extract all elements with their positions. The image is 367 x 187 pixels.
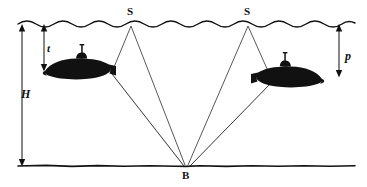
left-submarine: [43, 44, 116, 79]
diagram-canvas: H t p S S B: [0, 0, 367, 187]
label-surface-point-left: S: [127, 6, 133, 17]
dimension-p: [336, 24, 342, 78]
ray-left-sub-to-S1: [112, 26, 131, 72]
ray-S1-to-B: [131, 26, 185, 165]
sea-bottom-line: [18, 165, 355, 166]
label-surface-point-right: S: [244, 6, 250, 17]
label-total-depth: H: [21, 88, 30, 100]
ray-S2-to-B: [188, 26, 248, 165]
label-bottom-point: B: [182, 170, 189, 181]
ray-left-sub-to-B: [112, 74, 184, 166]
label-left-sub-depth: t: [47, 43, 50, 54]
direct-bottom-rays: [112, 74, 272, 166]
sea-surface-line: [18, 21, 355, 27]
surface-reflected-rays: [112, 26, 272, 165]
diagram-svg: [0, 0, 367, 187]
label-right-sub-depth: p: [345, 50, 351, 62]
ray-right-sub-to-B: [190, 82, 272, 166]
